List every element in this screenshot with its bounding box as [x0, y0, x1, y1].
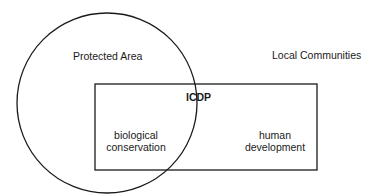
human-text: human: [243, 129, 307, 141]
local-communities-label: Local Communities: [272, 49, 361, 61]
human-development-label: human development: [243, 129, 307, 153]
icdp-label: ICDP: [186, 91, 211, 103]
biological-text: biological: [104, 129, 168, 141]
protected-area-circle: [17, 13, 197, 193]
protected-area-label: Protected Area: [73, 50, 142, 62]
biological-conservation-label: biological conservation: [104, 129, 168, 153]
development-text: development: [243, 141, 307, 153]
conservation-text: conservation: [104, 141, 168, 153]
